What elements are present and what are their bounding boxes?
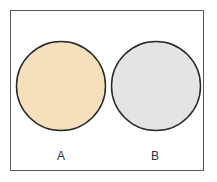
set-b-circle bbox=[112, 42, 201, 131]
venn-diagram bbox=[0, 0, 217, 182]
set-a-circle bbox=[17, 42, 106, 131]
set-b-label: B bbox=[145, 149, 165, 163]
set-a-label: A bbox=[51, 149, 71, 163]
